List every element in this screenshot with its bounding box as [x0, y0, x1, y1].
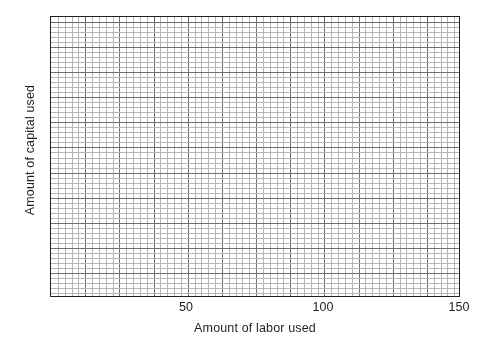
x-tick-label-150: 150	[429, 300, 483, 314]
chart-figure: 300 200 100 0 50 100 150 Amount of labor…	[0, 0, 483, 343]
x-tick-label-50: 50	[156, 300, 216, 314]
x-axis-tick-labels: 50 100 150	[0, 0, 483, 343]
x-axis-title: Amount of labor used	[50, 321, 460, 335]
x-tick-label-100: 100	[293, 300, 353, 314]
